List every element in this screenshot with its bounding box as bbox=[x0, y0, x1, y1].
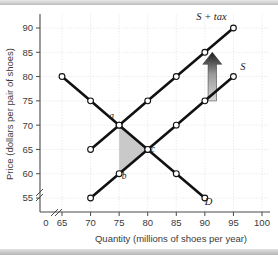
curve-label-s-tax: S + tax bbox=[196, 11, 227, 22]
data-point bbox=[173, 122, 179, 128]
y-tick-label: 90 bbox=[22, 22, 33, 33]
data-point bbox=[88, 147, 94, 153]
data-point bbox=[88, 98, 94, 104]
curve-label-d: D bbox=[204, 196, 213, 207]
curve-d bbox=[62, 77, 205, 198]
y-tick-label: 55 bbox=[22, 192, 33, 203]
curve-labels-group: DSS + tax bbox=[196, 11, 246, 207]
data-point bbox=[231, 25, 237, 31]
data-point bbox=[231, 74, 237, 80]
x-tick-labels-group: 065707580859095100 bbox=[43, 217, 270, 228]
data-point bbox=[202, 49, 208, 55]
deadweight-loss-triangle bbox=[119, 125, 148, 174]
supply-demand-chart: 5560657075808590 065707580859095100 DSS … bbox=[0, 0, 278, 255]
curve-s bbox=[91, 77, 234, 198]
x-tick-label: 95 bbox=[228, 217, 239, 228]
y-tick-label: 80 bbox=[22, 71, 33, 82]
x-tick-label: 0 bbox=[43, 217, 48, 228]
figure-canvas: 5560657075808590 065707580859095100 DSS … bbox=[0, 0, 278, 255]
data-point bbox=[173, 171, 179, 177]
y-axis-title: Price (dollars per pair of shoes) bbox=[4, 48, 15, 180]
data-point bbox=[202, 98, 208, 104]
x-tick-label: 80 bbox=[142, 217, 153, 228]
data-point bbox=[116, 122, 122, 128]
y-tick-label: 60 bbox=[22, 168, 33, 179]
x-tick-label: 70 bbox=[85, 217, 96, 228]
gridlines-group bbox=[40, 14, 268, 212]
y-tick-labels-group: 5560657075808590 bbox=[22, 22, 33, 203]
curve-label-s: S bbox=[240, 61, 246, 72]
point-a-label: a bbox=[109, 111, 114, 121]
x-tick-label: 75 bbox=[114, 217, 125, 228]
top-divider-bar bbox=[0, 0, 278, 5]
y-tick-label: 85 bbox=[22, 47, 33, 58]
x-tick-label: 100 bbox=[254, 217, 270, 228]
data-point bbox=[59, 74, 65, 80]
x-axis-title: Quantity (millions of shoes per year) bbox=[95, 233, 247, 244]
data-point bbox=[88, 195, 94, 201]
point-b-label: b bbox=[122, 171, 127, 181]
x-tick-label: 85 bbox=[171, 217, 182, 228]
x-tick-label: 65 bbox=[57, 217, 68, 228]
y-tick-label: 65 bbox=[22, 144, 33, 155]
data-point bbox=[145, 98, 151, 104]
bottom-divider-bar bbox=[0, 249, 278, 255]
data-point bbox=[173, 74, 179, 80]
y-tick-label: 70 bbox=[22, 120, 33, 131]
tickmarks-group bbox=[36, 28, 262, 216]
x-tick-label: 90 bbox=[200, 217, 211, 228]
y-tick-label: 75 bbox=[22, 95, 33, 106]
